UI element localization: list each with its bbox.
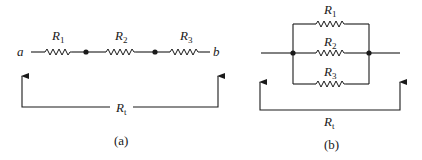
r2-label: R2 — [114, 28, 127, 45]
resistor-r3-icon — [170, 49, 200, 55]
total-bracket — [260, 82, 400, 110]
resistor-r1-icon — [316, 21, 346, 27]
series-circuit: a R1 R2 R3 b Rt (a) — [17, 28, 220, 148]
r3-label: R3 — [323, 64, 337, 81]
parallel-circuit: R1 R2 R3 Rt (b) — [260, 2, 400, 152]
rt-label: Rt — [323, 114, 335, 131]
junction-dot-icon — [290, 50, 295, 55]
caption-a: (a) — [114, 133, 128, 148]
junction-dot-icon — [366, 50, 371, 55]
r2-label: R2 — [323, 34, 336, 51]
caption-b: (b) — [324, 137, 339, 152]
terminal-b-label: b — [213, 44, 220, 59]
rt-label: Rt — [115, 100, 127, 117]
r1-label: R1 — [51, 28, 64, 45]
resistor-r3-icon — [316, 81, 346, 87]
terminal-a-label: a — [17, 44, 24, 59]
r3-label: R3 — [179, 28, 193, 45]
resistor-r1-icon — [45, 49, 72, 55]
resistor-r2-icon — [106, 49, 136, 55]
circuit-diagram: a R1 R2 R3 b Rt (a) — [0, 0, 422, 160]
total-bracket-left — [22, 76, 110, 107]
total-bracket-right — [133, 76, 218, 107]
r1-label: R1 — [323, 2, 336, 19]
